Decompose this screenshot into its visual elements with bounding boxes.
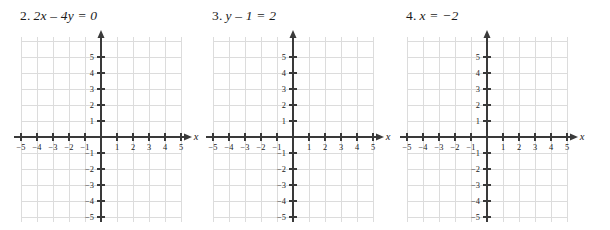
y-axis-arrow [98,30,105,38]
x-tick-label: 4 [163,143,168,152]
x-tick-label: −4 [225,143,235,152]
problem-equation: y – 1 = 2 [226,8,277,23]
y-tick-label: 3 [476,85,480,94]
x-tick-label: 1 [501,143,505,152]
coordinate-grid-3[interactable]: −5 −4 −3 −2 −1 1 2 3 4 5 5 4 3 2 1 −1 −2… [192,28,395,228]
x-tick-label: 2 [131,143,135,152]
y-tick-label: −4 [471,197,481,206]
x-tick-label: −3 [435,143,444,152]
x-tick-labels: −5 −4 −3 −2 −1 1 2 3 4 5 [403,143,570,152]
y-tick-label: −1 [277,149,286,158]
graph-svg: −5 −4 −3 −2 −1 1 2 3 4 5 5 4 3 2 1 −1 −2… [192,28,395,228]
problem-number: 3. [212,8,223,23]
x-tick-label: 5 [371,143,375,152]
x-tick-label: −5 [17,143,26,152]
y-tick-label: −3 [277,181,286,190]
y-axis-arrow [484,30,491,38]
graph-svg: −5 −4 −3 −2 −1 1 2 3 4 5 5 4 3 2 1 −1 −2… [0,28,203,228]
x-tick-label: −2 [451,143,460,152]
x-tick-label: −3 [241,143,250,152]
problem-block-4: 4.x = −2 [386,0,589,230]
problem-block-2: 2.2x – 4y = 0 [0,0,203,230]
x-tick-label: 1 [307,143,311,152]
x-axis-arrow [570,134,578,141]
problem-label-4: 4.x = −2 [406,8,458,24]
x-tick-label: −4 [419,143,429,152]
y-tick-label: 2 [282,101,286,110]
coordinate-grid-2[interactable]: −5 −4 −3 −2 −1 1 2 3 4 5 5 4 3 2 1 −1 −2… [0,28,203,228]
problem-block-3: 3.y – 1 = 2 [192,0,395,230]
x-tick-label: 3 [533,143,537,152]
x-tick-label: 5 [565,143,569,152]
y-tick-label: 2 [476,101,480,110]
y-tick-label: −2 [85,165,94,174]
problem-number: 4. [406,8,417,23]
y-tick-label: 3 [282,85,286,94]
y-tick-label: 1 [476,117,480,126]
x-tick-label: −3 [49,143,58,152]
coordinate-grid-4[interactable]: −5 −4 −3 −2 −1 1 2 3 4 5 5 4 3 2 1 −1 −2… [386,28,589,228]
y-tick-label: 5 [90,53,94,62]
y-tick-label: −2 [471,165,480,174]
x-tick-label: 2 [517,143,521,152]
y-tick-label: −3 [85,181,94,190]
x-axis-arrow [376,134,384,141]
x-tick-label: 4 [549,143,554,152]
graph-svg: −5 −4 −3 −2 −1 1 2 3 4 5 5 4 3 2 1 −1 −2… [386,28,589,228]
y-tick-label: 1 [282,117,286,126]
problem-equation: 2x – 4y = 0 [34,8,98,23]
x-tick-label: −2 [257,143,266,152]
x-tick-label: 1 [115,143,119,152]
x-axis-arrow [184,134,192,141]
y-tick-label: 2 [90,101,94,110]
x-tick-label: 3 [147,143,151,152]
problem-number: 2. [20,8,31,23]
y-tick-label: 5 [282,53,286,62]
y-tick-label: −4 [277,197,287,206]
y-tick-label: 3 [90,85,94,94]
y-tick-label: −3 [471,181,480,190]
x-axis-label: x [579,131,585,142]
x-tick-label: 5 [179,143,183,152]
problem-label-3: 3.y – 1 = 2 [212,8,276,24]
y-axis-arrow [290,30,297,38]
x-tick-label: 2 [323,143,327,152]
y-tick-label: 1 [90,117,94,126]
y-tick-label: −5 [471,213,480,222]
x-tick-label: 3 [339,143,343,152]
y-tick-label: −1 [85,149,94,158]
x-tick-labels: −5 −4 −3 −2 −1 1 2 3 4 5 [17,143,184,152]
problem-label-2: 2.2x – 4y = 0 [20,8,97,24]
x-tick-label: −4 [33,143,43,152]
y-tick-label: −4 [85,197,95,206]
x-tick-label: −2 [65,143,74,152]
y-tick-label: −5 [85,213,94,222]
problem-equation: x = −2 [420,8,459,23]
x-tick-label: 4 [355,143,360,152]
x-tick-label: −5 [209,143,218,152]
y-tick-label: −1 [471,149,480,158]
x-tick-label: −5 [403,143,412,152]
y-tick-label: 5 [476,53,480,62]
y-tick-label: −2 [277,165,286,174]
x-tick-labels: −5 −4 −3 −2 −1 1 2 3 4 5 [209,143,376,152]
y-tick-label: −5 [277,213,286,222]
